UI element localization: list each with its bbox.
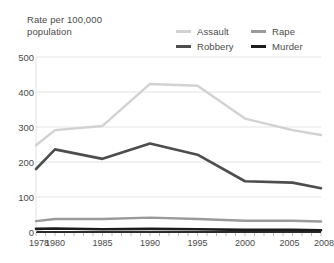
series-line-robbery — [36, 143, 321, 188]
series-line-assault — [36, 84, 321, 145]
series-line-rape — [36, 218, 321, 222]
series-line-murder — [36, 229, 321, 231]
